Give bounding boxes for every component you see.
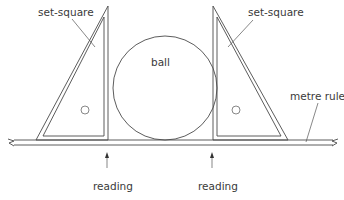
apparatus-diagram: set-square set-square ball metre rule re… bbox=[0, 0, 344, 200]
break-mark-left-icon bbox=[8, 139, 14, 146]
set-square-right bbox=[213, 6, 288, 140]
set-square-left bbox=[36, 6, 108, 140]
set-square-hole-left bbox=[81, 106, 89, 114]
label-set-square-right: set-square bbox=[248, 6, 304, 18]
leader-set-square-right bbox=[228, 20, 253, 47]
reading-arrow-right-icon bbox=[210, 152, 214, 168]
label-ball: ball bbox=[151, 56, 170, 68]
label-metre-rule: metre rule bbox=[290, 90, 344, 102]
ball bbox=[113, 36, 217, 140]
leader-set-square-left bbox=[72, 19, 95, 47]
leader-metre-rule bbox=[306, 103, 318, 142]
label-reading-left: reading bbox=[93, 180, 133, 192]
set-square-hole-right bbox=[232, 106, 240, 114]
label-set-square-left: set-square bbox=[38, 6, 94, 18]
reading-arrow-left-icon bbox=[105, 152, 109, 168]
label-reading-right: reading bbox=[198, 180, 238, 192]
